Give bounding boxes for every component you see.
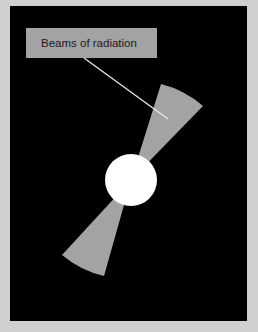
neutron-star: [105, 154, 157, 206]
beams-label-text: Beams of radiation: [41, 37, 137, 49]
beams-label-box: Beams of radiation: [26, 28, 157, 58]
leader-line: [84, 58, 168, 119]
